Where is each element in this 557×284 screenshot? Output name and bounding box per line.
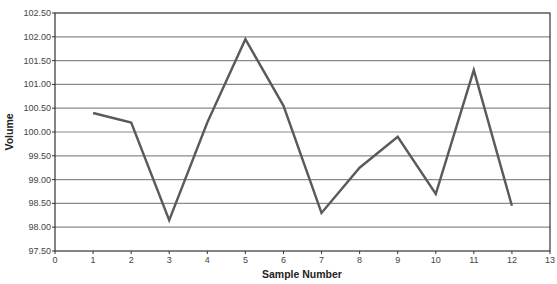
x-tick-label: 6 (281, 255, 286, 265)
y-tick-label: 97.50 (28, 246, 51, 256)
x-tick-label: 8 (357, 255, 362, 265)
y-tick-label: 99.00 (28, 175, 51, 185)
y-tick-label: 102.00 (23, 32, 51, 42)
y-tick-label: 101.50 (23, 56, 51, 66)
y-tick-label: 102.50 (23, 8, 51, 18)
y-axis-title: Volume (3, 113, 15, 150)
data-line (93, 39, 512, 220)
x-tick-label: 9 (395, 255, 400, 265)
x-tick-label: 2 (129, 255, 134, 265)
x-tick-label: 1 (91, 255, 96, 265)
x-tick-label: 10 (431, 255, 441, 265)
line-chart: 97.5098.0098.5099.0099.50100.00100.50101… (0, 0, 557, 284)
x-tick-label: 3 (167, 255, 172, 265)
x-tick-label: 4 (205, 255, 210, 265)
x-tick-label: 12 (507, 255, 517, 265)
y-tick-label: 99.50 (28, 151, 51, 161)
x-tick-label: 13 (545, 255, 555, 265)
x-axis-title: Sample Number (262, 268, 342, 280)
x-tick-label: 5 (243, 255, 248, 265)
y-tick-label: 100.50 (23, 103, 51, 113)
gridlines (55, 37, 550, 227)
y-tick-label: 98.50 (28, 198, 51, 208)
x-axis: 012345678910111213 (52, 251, 555, 265)
y-tick-label: 98.00 (28, 222, 51, 232)
y-tick-label: 101.00 (23, 79, 51, 89)
x-tick-label: 7 (319, 255, 324, 265)
x-tick-label: 0 (52, 255, 57, 265)
y-axis: 97.5098.0098.5099.0099.50100.00100.50101… (23, 8, 55, 256)
x-tick-label: 11 (469, 255, 478, 265)
y-tick-label: 100.00 (23, 127, 51, 137)
